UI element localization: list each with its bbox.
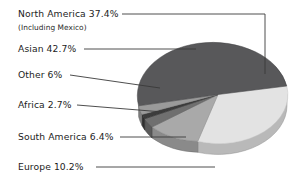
label-south-america: South America 6.4% — [18, 131, 114, 142]
label-europe: Europe 10.2% — [18, 161, 84, 172]
pie-chart-figure: North America 37.4% (Including Mexico) A… — [0, 0, 298, 186]
pie-chart-canvas: North America 37.4% (Including Mexico) A… — [0, 0, 298, 186]
label-asian: Asian 42.7% — [18, 43, 76, 54]
label-other: Other 6% — [18, 69, 63, 80]
label-north-america-note: (Including Mexico) — [18, 23, 87, 32]
label-africa: Africa 2.7% — [18, 99, 72, 110]
pie-labels: North America 37.4% (Including Mexico) A… — [18, 8, 119, 172]
label-north-america: North America 37.4% — [18, 8, 119, 19]
